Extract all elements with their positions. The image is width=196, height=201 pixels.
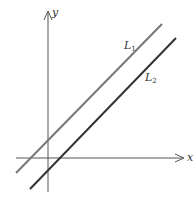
x-axis-label: x xyxy=(187,152,193,163)
y-axis-label: y xyxy=(52,7,58,18)
diagram-svg xyxy=(0,0,196,201)
l1-label: L1 xyxy=(124,40,136,53)
line-l1 xyxy=(16,24,162,173)
line-l2 xyxy=(30,38,176,189)
parallel-lines-diagram: y x L1 L2 xyxy=(0,0,196,201)
l2-label: L2 xyxy=(145,72,157,85)
